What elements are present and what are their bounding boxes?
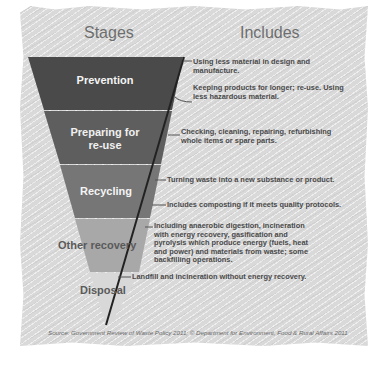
includes-text-disposal: Landfill and incineration without energy… [132, 273, 352, 282]
stage-label-line2: re-use [50, 139, 160, 152]
includes-text-preparing: Checking, cleaning, repairing, refurbish… [181, 128, 341, 145]
includes-text-recycling-1: Turning waste into a new substance or pr… [167, 176, 367, 185]
stage-label-preparing-for-reuse: Preparing for re-use [50, 126, 160, 152]
includes-text-other-recovery: Including anaerobic digestion, incinerat… [154, 222, 314, 265]
includes-text-prevention-2: Keeping products for longer; re-use. Usi… [193, 84, 348, 101]
includes-text-recycling-2: Includes composting if it meets quality … [167, 201, 367, 210]
stage-label-recycling: Recycling [56, 185, 156, 197]
source-citation: Source: Government Review of Waste Polic… [48, 329, 348, 336]
stage-label-line1: Preparing for [50, 126, 160, 139]
includes-text-prevention-1: Using less material in design and manufa… [193, 58, 318, 75]
stage-label-prevention: Prevention [50, 74, 160, 86]
stage-label-other-recovery: Other recovery [58, 239, 168, 251]
stage-label-disposal: Disposal [80, 284, 140, 296]
